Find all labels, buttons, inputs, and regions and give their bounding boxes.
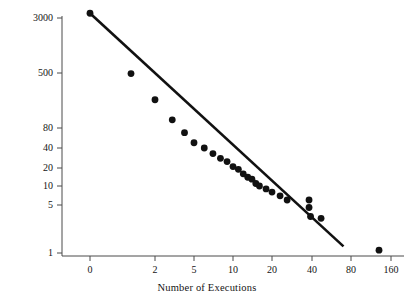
data-point: [284, 197, 291, 204]
data-point: [201, 145, 208, 152]
x-tick-label-160: 160: [384, 265, 399, 275]
y-tick-label-500: 500: [8, 68, 53, 78]
x-tick-label-0: 0: [88, 265, 93, 275]
data-point: [269, 189, 276, 196]
data-point: [181, 129, 188, 136]
data-point: [191, 139, 198, 146]
data-point: [306, 204, 313, 211]
chart-container: 30005008040201051 02510204080160 Number …: [0, 0, 414, 304]
regression-fit-line: [90, 13, 343, 246]
x-tick-label-5: 5: [192, 265, 197, 275]
data-point: [210, 150, 217, 157]
data-point: [263, 185, 270, 192]
data-point: [128, 70, 135, 77]
x-tick-label-40: 40: [307, 265, 317, 275]
x-tick-label-10: 10: [228, 265, 238, 275]
x-tick-label-20: 20: [267, 265, 277, 275]
axis-lines: [62, 16, 404, 256]
x-tick-label-80: 80: [346, 265, 356, 275]
y-tick-label-80: 80: [8, 123, 53, 133]
data-point: [224, 158, 231, 165]
x-tick-label-2: 2: [153, 265, 158, 275]
data-point: [318, 215, 325, 222]
data-point: [306, 197, 313, 204]
data-point: [277, 192, 284, 199]
y-tick-label-5: 5: [8, 200, 53, 210]
data-point: [256, 183, 263, 190]
data-point: [169, 116, 176, 123]
data-point: [152, 96, 159, 103]
x-axis-ticks: [90, 256, 391, 261]
data-point: [307, 213, 314, 220]
y-tick-label-1: 1: [8, 248, 53, 258]
fit-line: [90, 13, 343, 246]
y-tick-label-10: 10: [8, 181, 53, 191]
scatter-plot: [0, 0, 414, 304]
y-tick-label-40: 40: [8, 143, 53, 153]
data-point: [217, 155, 224, 162]
y-tick-label-20: 20: [8, 163, 53, 173]
data-points: [87, 10, 383, 254]
data-point: [376, 247, 383, 254]
x-axis-title: Number of Executions: [0, 282, 414, 293]
data-point: [87, 10, 94, 17]
y-axis-ticks: [57, 18, 62, 253]
y-tick-label-3000: 3000: [8, 13, 53, 23]
